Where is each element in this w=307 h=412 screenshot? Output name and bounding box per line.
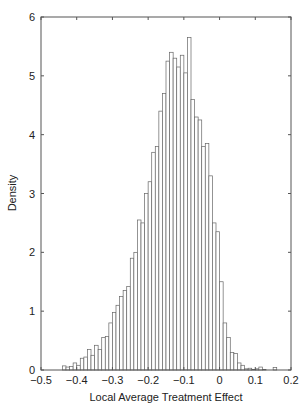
histogram-bar xyxy=(84,357,88,370)
histogram-bar xyxy=(95,345,99,370)
histogram-bar xyxy=(73,363,77,370)
histogram-bar xyxy=(130,258,134,370)
y-axis-label: Density xyxy=(6,174,18,211)
histogram-bar xyxy=(105,336,109,370)
histogram-bar xyxy=(216,232,220,370)
histogram-bar xyxy=(120,296,124,370)
histogram-bar xyxy=(209,176,213,370)
histogram-bar xyxy=(77,365,81,370)
histogram-bar xyxy=(80,358,84,370)
histogram-bar xyxy=(70,366,74,370)
histogram-bar xyxy=(227,338,231,370)
x-tick-label: −0.4 xyxy=(66,374,88,386)
histogram-bar xyxy=(205,143,209,370)
histogram-bar xyxy=(180,55,184,370)
histogram-bar xyxy=(148,182,152,370)
histogram-bar xyxy=(112,312,116,370)
histogram-bar xyxy=(127,286,131,370)
y-tick-label: 3 xyxy=(29,188,35,200)
histogram-bar xyxy=(230,352,234,370)
histogram-bar xyxy=(152,152,156,370)
histogram-bar xyxy=(155,146,159,370)
histogram-bar xyxy=(137,220,141,370)
histogram-bar xyxy=(141,223,145,370)
histogram-bar xyxy=(212,223,216,370)
histogram-bar xyxy=(234,354,238,370)
histogram-chart: −0.5−0.4−0.3−0.2−0.100.10.2 0123456 Loca… xyxy=(0,0,307,412)
y-tick-label: 0 xyxy=(29,364,35,376)
histogram-bar xyxy=(187,38,191,370)
histogram-bar xyxy=(145,194,149,371)
y-tick-label: 5 xyxy=(29,70,35,82)
histogram-bar xyxy=(241,365,245,370)
histogram-bar xyxy=(191,99,195,370)
histogram-bar xyxy=(184,73,188,370)
histogram-bar xyxy=(91,355,95,370)
y-tick-label: 2 xyxy=(29,246,35,258)
y-tick-label: 6 xyxy=(29,11,35,23)
histogram-bar xyxy=(173,58,177,370)
histogram-bar xyxy=(195,117,199,370)
histogram-bar xyxy=(123,291,127,370)
x-tick-label: 0.2 xyxy=(283,374,298,386)
histogram-bar xyxy=(98,349,102,370)
x-tick-label: −0.3 xyxy=(102,374,124,386)
y-tick-label: 1 xyxy=(29,305,35,317)
x-tick-label: 0 xyxy=(217,374,223,386)
histogram-bar xyxy=(109,323,113,370)
x-axis-label: Local Average Treatment Effect xyxy=(89,391,242,403)
histogram-bar xyxy=(159,111,163,370)
histogram-bar xyxy=(170,52,174,370)
histogram-bar xyxy=(177,67,181,370)
x-tick-label: −0.1 xyxy=(173,374,195,386)
histogram-bar xyxy=(223,323,227,370)
histogram-bar xyxy=(62,366,66,370)
x-tick-label: 0.1 xyxy=(248,374,263,386)
histogram-bar xyxy=(116,305,120,370)
histogram-bar xyxy=(166,61,170,370)
histogram-bar xyxy=(162,93,166,370)
histogram-bar xyxy=(198,120,202,370)
y-tick-label: 4 xyxy=(29,129,35,141)
histogram-bar xyxy=(87,349,91,370)
histogram-bar xyxy=(202,146,206,370)
histogram-bar xyxy=(102,338,106,370)
histogram-bars xyxy=(62,38,276,370)
histogram-bar xyxy=(237,363,241,370)
histogram-bar xyxy=(220,282,224,370)
histogram-bar xyxy=(134,252,138,370)
x-tick-label: −0.2 xyxy=(137,374,159,386)
